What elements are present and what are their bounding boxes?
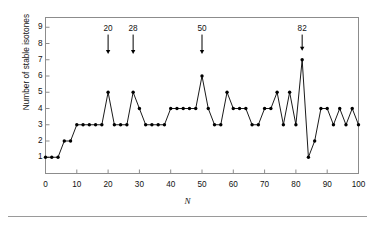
figure-container: Number of stable isotones N 123456789 01…	[0, 0, 375, 226]
data-point	[56, 156, 59, 159]
data-point	[351, 107, 354, 110]
y-tick-label: 6	[34, 71, 43, 80]
x-tick-label: 60	[219, 180, 247, 189]
data-point	[182, 107, 185, 110]
x-tick-label: 20	[94, 180, 122, 189]
data-point	[44, 156, 47, 159]
data-point	[307, 156, 310, 159]
data-point	[357, 123, 360, 126]
x-axis-label: N	[0, 196, 375, 206]
data-point	[94, 123, 97, 126]
magic-number-label-82: 82	[288, 24, 316, 33]
data-point	[63, 139, 66, 142]
data-point	[300, 58, 303, 61]
data-point	[338, 107, 341, 110]
y-tick-label: 2	[34, 136, 43, 145]
data-point	[100, 123, 103, 126]
data-point	[244, 107, 247, 110]
data-point	[88, 123, 91, 126]
data-point	[238, 107, 241, 110]
data-point	[119, 123, 122, 126]
data-point	[257, 123, 260, 126]
data-point	[294, 123, 297, 126]
x-tick-label: 80	[282, 180, 310, 189]
x-tick-label: 100	[345, 180, 373, 189]
y-tick-label: 4	[34, 104, 43, 113]
data-point	[81, 123, 84, 126]
data-point	[50, 156, 53, 159]
chart-svg	[0, 0, 375, 226]
data-point	[125, 123, 128, 126]
magic-number-label-28: 28	[119, 24, 147, 33]
data-point	[200, 74, 203, 77]
data-point	[232, 107, 235, 110]
data-point	[188, 107, 191, 110]
x-tick-label: 10	[63, 180, 91, 189]
x-tick-label: 50	[188, 180, 216, 189]
data-point	[194, 107, 197, 110]
data-point	[269, 107, 272, 110]
data-point	[150, 123, 153, 126]
magic-number-label-20: 20	[94, 24, 122, 33]
data-point	[144, 123, 147, 126]
data-point	[250, 123, 253, 126]
annotation-arrows	[106, 35, 304, 55]
y-tick-label: 3	[34, 120, 43, 129]
y-axis-label: Number of stable isotones	[22, 0, 30, 132]
data-point	[344, 123, 347, 126]
data-point	[156, 123, 159, 126]
data-point	[213, 123, 216, 126]
x-tick-label: 30	[125, 180, 153, 189]
data-point	[313, 139, 316, 142]
data-point	[288, 91, 291, 94]
y-tick-label: 5	[34, 87, 43, 96]
data-point	[332, 123, 335, 126]
data-point	[169, 107, 172, 110]
data-point	[225, 91, 228, 94]
data-point	[163, 123, 166, 126]
data-point	[113, 123, 116, 126]
data-point	[263, 107, 266, 110]
magic-number-label-50: 50	[188, 24, 216, 33]
x-tick-label: 40	[157, 180, 185, 189]
data-point	[138, 107, 141, 110]
bottom-divider-rule	[8, 216, 367, 217]
y-tick-label: 7	[34, 55, 43, 64]
data-point-markers	[44, 58, 360, 159]
data-point	[106, 91, 109, 94]
data-point	[219, 123, 222, 126]
data-point	[75, 123, 78, 126]
data-point	[175, 107, 178, 110]
chart-area: Number of stable isotones N 123456789 01…	[0, 0, 375, 226]
y-tick-label: 1	[34, 152, 43, 161]
data-point	[282, 123, 285, 126]
data-point	[207, 107, 210, 110]
x-tick-label: 90	[313, 180, 341, 189]
y-tick-label: 8	[34, 39, 43, 48]
data-point	[319, 107, 322, 110]
y-tick-label: 9	[34, 22, 43, 31]
x-tick-label: 70	[251, 180, 279, 189]
data-point	[69, 139, 72, 142]
data-point	[131, 91, 134, 94]
x-tick-label: 0	[32, 180, 60, 189]
data-point	[326, 107, 329, 110]
data-point	[275, 91, 278, 94]
